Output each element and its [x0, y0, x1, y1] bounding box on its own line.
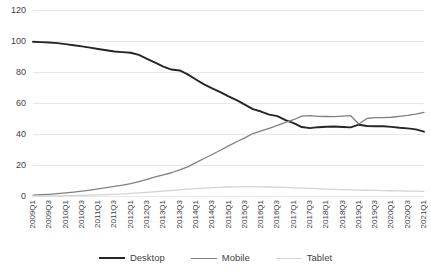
legend-item-mobile[interactable]: Mobile [191, 253, 250, 263]
chart-plot-area [0, 0, 431, 272]
x-axis-tick-label: 2009Q1 [29, 200, 37, 228]
x-axis-tick-label: 2017Q3 [306, 200, 314, 228]
x-axis-tick-label: 2014Q1 [192, 200, 200, 228]
legend-line-swatch [276, 258, 302, 259]
y-axis-tick-label: 40 [0, 130, 26, 139]
y-axis-tick-label: 20 [0, 161, 26, 170]
x-axis-tick-label: 2010Q3 [78, 200, 86, 228]
y-axis-tick-label: 120 [0, 6, 26, 15]
legend-item-tablet[interactable]: Tablet [276, 253, 332, 263]
x-axis-tick-label: 2012Q1 [127, 200, 135, 228]
x-axis-tick-label: 2016Q3 [273, 200, 281, 228]
series-lines [33, 42, 424, 196]
legend-item-label: Desktop [130, 253, 165, 263]
x-axis-tick-label: 2015Q3 [241, 200, 249, 228]
legend-item-label: Tablet [307, 253, 332, 263]
x-axis-tick-label: 2010Q1 [62, 200, 70, 228]
x-axis-tick-label: 2015Q1 [225, 200, 233, 228]
series-line-tablet [33, 187, 424, 196]
series-line-desktop [33, 42, 424, 132]
legend-item-desktop[interactable]: Desktop [99, 253, 165, 263]
x-axis-tick-label: 2011Q1 [94, 200, 102, 228]
x-axis-tick-label: 2021Q1 [420, 200, 428, 228]
series-line-mobile [33, 112, 424, 195]
legend-line-swatch [99, 257, 125, 259]
x-axis-tick-label: 2020Q1 [387, 200, 395, 228]
x-axis-tick-label: 2014Q3 [208, 200, 216, 228]
x-axis-tick-label: 2016Q1 [257, 200, 265, 228]
x-axis-tick-label: 2012Q3 [143, 200, 151, 228]
x-axis-tick-label: 2017Q1 [290, 200, 298, 228]
x-axis-tick-label: 2018Q3 [339, 200, 347, 228]
line-chart: 020406080100120 2009Q12009Q32010Q12010Q3… [0, 0, 431, 272]
y-axis-tick-label: 100 [0, 37, 26, 46]
x-axis-tick-label: 2009Q3 [45, 200, 53, 228]
x-axis-tick-label: 2018Q1 [322, 200, 330, 228]
y-axis-tick-label: 60 [0, 99, 26, 108]
y-axis-tick-label: 80 [0, 68, 26, 77]
x-axis-tick-label: 2020Q3 [404, 200, 412, 228]
gridlines [33, 10, 424, 196]
x-axis-tick-label: 2013Q1 [159, 200, 167, 228]
legend-line-swatch [191, 258, 217, 259]
x-axis-tick-label: 2011Q3 [110, 200, 118, 228]
y-axis-tick-label: 0 [0, 192, 26, 201]
x-axis-tick-label: 2019Q1 [355, 200, 363, 228]
x-axis-tick-label: 2013Q3 [176, 200, 184, 228]
chart-legend: DesktopMobileTablet [0, 250, 431, 266]
legend-item-label: Mobile [222, 253, 250, 263]
x-axis-tick-label: 2019Q3 [371, 200, 379, 228]
